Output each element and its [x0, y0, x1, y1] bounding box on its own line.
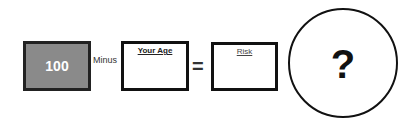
equals-sign: =: [192, 55, 204, 78]
minus-label: Minus: [93, 55, 117, 65]
risk-box: Risk: [211, 42, 278, 91]
base-value: 100: [45, 58, 68, 74]
question-mark-icon: ?: [331, 44, 355, 84]
your-age-label: Your Age: [124, 46, 186, 55]
result-circle: ?: [288, 8, 398, 118]
risk-label: Risk: [214, 47, 275, 56]
your-age-box: Your Age: [121, 41, 189, 91]
base-value-box: 100: [23, 41, 91, 91]
